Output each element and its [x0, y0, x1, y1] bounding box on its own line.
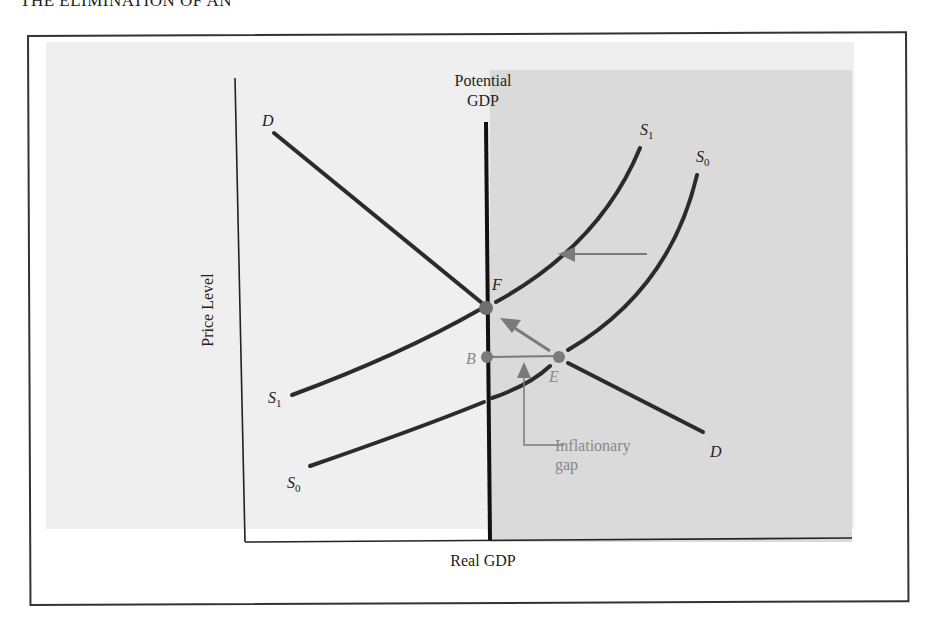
supply-curve-s0-lower: [310, 402, 484, 466]
inflationary-gap-label-line1: Inflationary: [555, 437, 631, 455]
point-e: [553, 351, 565, 363]
y-axis-label: Price Level: [199, 273, 216, 347]
potential-gdp-label-line2: GDP: [467, 92, 499, 109]
d-label-bottom: D: [709, 443, 722, 460]
potential-gdp-line: [486, 122, 490, 540]
inflationary-gap-segment: [487, 356, 559, 357]
point-f: [479, 301, 493, 315]
inflationary-gap-label-line2: gap: [555, 456, 578, 474]
point-f-label: F: [491, 276, 502, 293]
d-label-top: D: [261, 112, 274, 129]
inflationary-region-shade: [490, 70, 852, 542]
s1-label-left: S1: [268, 389, 282, 409]
y-axis: [235, 78, 245, 542]
potential-gdp-label-line1: Potential: [455, 72, 512, 89]
point-b: [481, 351, 493, 363]
point-b-label: B: [466, 350, 476, 367]
s0-label-left: S0: [287, 474, 301, 494]
point-e-label: E: [548, 368, 559, 385]
ad-as-diagram: Potential GDP Price Level Real GDP D D S…: [0, 0, 936, 640]
demand-curve-upper: [274, 133, 482, 303]
x-axis-label: Real GDP: [450, 552, 515, 569]
supply-curve-s1-lower: [292, 310, 479, 395]
